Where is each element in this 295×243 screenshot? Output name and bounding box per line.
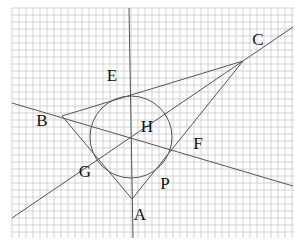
point-label-a: A <box>134 206 146 223</box>
point-label-f: F <box>193 135 202 152</box>
point-label-g: G <box>79 163 91 180</box>
point-label-p: P <box>160 175 169 192</box>
point-label-h: H <box>141 118 153 135</box>
point-label-c: C <box>252 31 263 48</box>
geometry-diagram: ABCEFGHP <box>0 0 295 243</box>
point-label-e: E <box>107 67 117 84</box>
point-label-b: B <box>36 112 47 129</box>
